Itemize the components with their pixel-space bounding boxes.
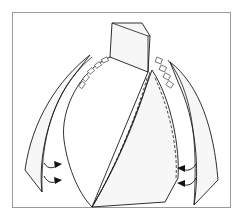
body — [63, 57, 178, 207]
right-arrows — [177, 164, 196, 187]
assembly-diagram — [0, 0, 241, 222]
left-arrows — [44, 161, 62, 184]
